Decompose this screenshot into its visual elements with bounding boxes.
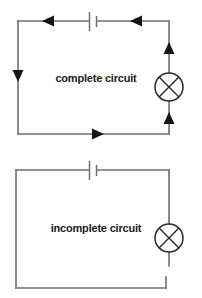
circuit-diagram: complete circuit — [0, 0, 202, 298]
current-arrow-right-upper — [164, 42, 175, 54]
lamp-symbol — [155, 73, 183, 101]
current-arrow-right-lower — [164, 112, 175, 124]
current-arrow-top-right — [130, 16, 142, 27]
complete-circuit-label: complete circuit — [55, 72, 137, 84]
current-arrow-top-left — [42, 16, 54, 27]
lamp-symbol — [155, 224, 183, 252]
diagram-canvas: complete circuit — [0, 0, 202, 298]
battery-symbol — [90, 12, 97, 31]
incomplete-circuit: incomplete circuit — [16, 161, 183, 288]
current-arrow-bottom — [92, 129, 104, 140]
current-arrow-left — [13, 70, 24, 82]
battery-symbol — [90, 161, 97, 180]
incomplete-circuit-label: incomplete circuit — [51, 222, 142, 234]
complete-circuit: complete circuit — [13, 12, 184, 140]
